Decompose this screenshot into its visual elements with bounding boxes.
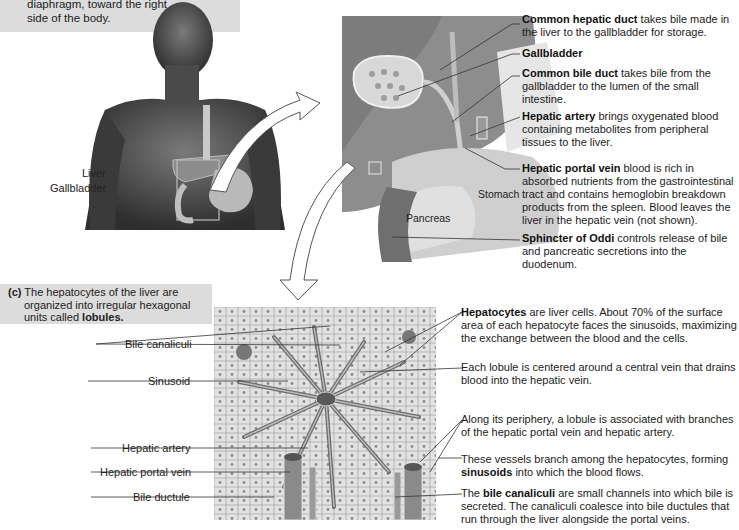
term-sinusoids: sinusoids [461, 466, 512, 478]
callout-central-vein: Each lobule is centered around a central… [461, 361, 739, 387]
label-sinusoid: Sinusoid [148, 375, 190, 387]
term-hepatocytes: Hepatocytes [461, 306, 526, 318]
callout-bile-canaliculi: The bile canaliculi are small channels i… [461, 487, 739, 526]
callout-hepatocytes: Hepatocytes are liver cells. About 70% o… [461, 306, 739, 345]
label-hepatic-artery: Hepatic artery [122, 442, 190, 454]
sinusoids-pre: These vessels branch among the hepatocyt… [461, 453, 728, 465]
callout-sinusoids: These vessels branch among the hepatocyt… [461, 453, 739, 479]
periphery-text: Along its periphery, a lobule is associa… [461, 413, 734, 438]
bile-canaliculi-pre: The [461, 487, 483, 499]
panel-c-leader-lines [0, 0, 739, 530]
callout-periphery: Along its periphery, a lobule is associa… [461, 413, 739, 439]
label-hepatic-portal-vein: Hepatic portal vein [100, 466, 191, 478]
term-bile-canaliculi: bile canaliculi [483, 487, 555, 499]
label-bile-ductule: Bile ductule [133, 491, 190, 503]
sinusoids-post: into which the blood flows. [512, 466, 643, 478]
label-bile-canaliculi: Bile canaliculi [125, 338, 192, 350]
central-vein-text: Each lobule is centered around a central… [461, 361, 736, 386]
